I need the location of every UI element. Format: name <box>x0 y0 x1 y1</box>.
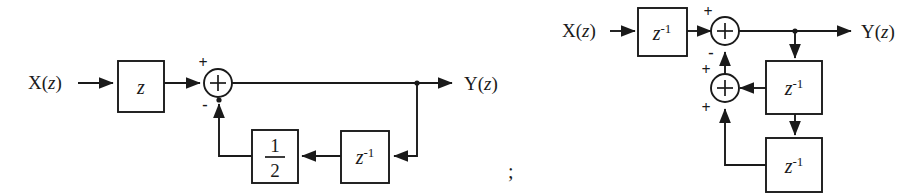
summer-lower-sign-upper: + <box>701 61 710 78</box>
figure-canvas: X(z) z + - Y(z) z-1 1 2 <box>0 0 912 196</box>
summer-left-sign-minus: - <box>202 96 207 113</box>
input-label-right: X(z) <box>562 20 596 42</box>
summer-top-sign-minus: - <box>708 44 713 61</box>
diagram-right: X(z) z-1 + - Y(z) z-1 + + <box>562 3 895 192</box>
summer-lower-sign-lower: + <box>701 99 710 116</box>
diagram-separator: ; <box>508 160 514 182</box>
advance-block-left-label: z <box>136 76 145 98</box>
wire-delay-second-to-summer-lower <box>725 109 766 165</box>
summer-top-sign-plus: + <box>703 3 712 20</box>
block-diagram-figure: X(z) z + - Y(z) z-1 1 2 <box>0 0 912 196</box>
diagram-left: X(z) z + - Y(z) z-1 1 2 <box>28 54 498 183</box>
wire-output-tap-down <box>394 83 417 156</box>
junction-dot-summer-minus <box>216 97 221 102</box>
gain-one-half-numerator: 1 <box>270 135 280 156</box>
output-label-left: Y(z) <box>464 73 498 95</box>
output-label-right: Y(z) <box>861 21 895 43</box>
summer-left-sign-plus: + <box>198 54 207 71</box>
wire-gain-to-summer <box>219 104 252 156</box>
input-label-left: X(z) <box>28 72 62 94</box>
gain-one-half-denominator: 2 <box>270 160 280 181</box>
